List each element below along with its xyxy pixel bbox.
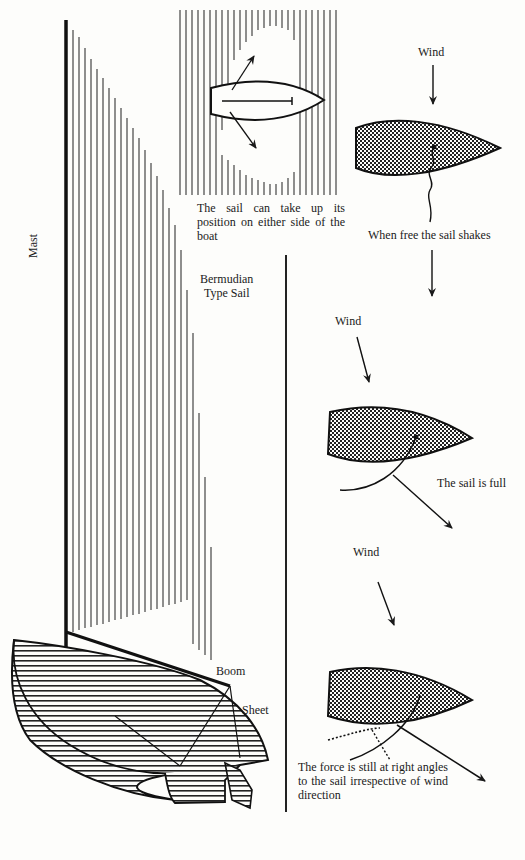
caption-full: The sail is full: [437, 476, 506, 490]
bermudian-sail: [73, 30, 211, 660]
wind-label-1: Wind: [418, 45, 444, 59]
plan-view-caption: The sail can take up its position on eit…: [197, 201, 345, 243]
mast-label: Mast: [26, 234, 40, 258]
diagram-full: [328, 337, 472, 528]
sheet-label: Sheet: [242, 703, 269, 717]
wind-label-3: Wind: [353, 545, 379, 559]
boom-label: Boom: [216, 664, 245, 678]
sail-type-label: Bermudian Type Sail: [200, 272, 253, 300]
caption-shakes: When free the sail shakes: [368, 228, 491, 242]
caption-right-angles: The force is still at right angles to th…: [298, 760, 448, 802]
diagram-shakes: [356, 65, 500, 296]
wind-label-2: Wind: [335, 314, 361, 328]
sail-type-line2: Type Sail: [200, 286, 253, 300]
diagram-right-angles: [328, 582, 485, 781]
diagram-canvas: [0, 0, 525, 860]
sail-type-line1: Bermudian: [200, 272, 253, 286]
